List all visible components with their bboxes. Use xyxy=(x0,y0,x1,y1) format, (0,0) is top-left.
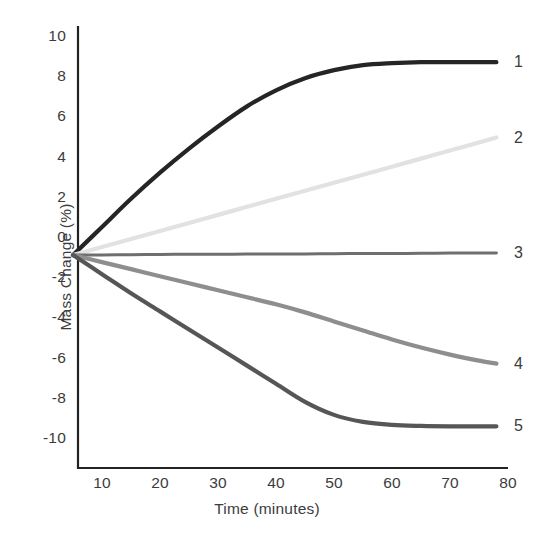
series-label-1: 1 xyxy=(514,53,523,71)
series-label-5: 5 xyxy=(514,417,523,435)
x-tick-label: 40 xyxy=(267,474,285,492)
series-line-3 xyxy=(73,253,496,255)
x-tick-label: 60 xyxy=(383,474,401,492)
y-tick-label: -10 xyxy=(18,429,66,447)
y-tick-label: -8 xyxy=(18,389,66,407)
y-tick-label: 10 xyxy=(18,27,66,45)
axis-lines xyxy=(78,26,508,468)
y-tick-label: -6 xyxy=(18,349,66,367)
y-axis-title: Mass Change (%) xyxy=(57,203,75,330)
x-tick-label: 10 xyxy=(93,474,111,492)
series-lines xyxy=(73,62,496,426)
series-line-4 xyxy=(73,255,496,364)
y-tick-label: 8 xyxy=(18,67,66,85)
y-tick-label: 6 xyxy=(18,107,66,125)
axis-spine xyxy=(78,26,508,468)
chart-figure: 1086420-2-4-6-8-10 1020304050607080 1234… xyxy=(0,0,534,534)
x-tick-label: 30 xyxy=(209,474,227,492)
x-tick-label: 20 xyxy=(151,474,169,492)
series-label-4: 4 xyxy=(514,355,523,373)
x-tick-label: 50 xyxy=(325,474,343,492)
series-label-3: 3 xyxy=(514,244,523,262)
x-axis-title: Time (minutes) xyxy=(0,500,534,518)
series-label-2: 2 xyxy=(514,129,523,147)
series-line-5 xyxy=(73,255,496,426)
chart-plot-area xyxy=(0,0,534,534)
x-tick-label: 80 xyxy=(499,474,517,492)
y-tick-label: 4 xyxy=(18,148,66,166)
x-tick-label: 70 xyxy=(441,474,459,492)
series-line-1 xyxy=(73,62,496,255)
